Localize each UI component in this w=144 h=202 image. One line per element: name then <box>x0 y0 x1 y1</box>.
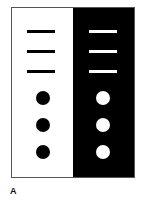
panel-label: A <box>10 186 17 196</box>
left-dot-2 <box>36 118 50 132</box>
figure-frame <box>11 7 135 178</box>
left-bar-1 <box>27 30 55 33</box>
right-dot-1 <box>96 91 110 105</box>
right-bar-1 <box>89 30 117 33</box>
left-panel-white <box>12 8 73 177</box>
right-bar-2 <box>89 50 117 53</box>
left-bar-2 <box>27 50 55 53</box>
right-dot-2 <box>96 118 110 132</box>
right-bar-3 <box>89 70 117 73</box>
right-dot-3 <box>96 145 110 159</box>
right-panel-black <box>73 8 134 177</box>
left-dot-1 <box>36 91 50 105</box>
left-dot-3 <box>36 145 50 159</box>
left-bar-3 <box>27 70 55 73</box>
